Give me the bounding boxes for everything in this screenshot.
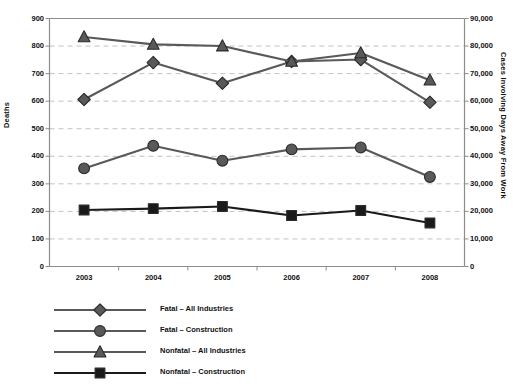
chart-figure: Deaths Cases Involving Days Away From Wo… xyxy=(0,0,520,387)
legend-marker-square-icon xyxy=(52,363,148,387)
data-point-marker xyxy=(95,326,106,337)
data-point-marker xyxy=(425,218,435,228)
data-point-marker xyxy=(425,172,436,183)
data-point-marker xyxy=(148,204,158,214)
chart-legend: Fatal – All IndustriesFatal – Constructi… xyxy=(52,300,352,384)
legend-label: Fatal – Construction xyxy=(160,325,233,334)
data-point-marker xyxy=(78,93,90,105)
data-point-marker xyxy=(217,155,228,166)
series-3 xyxy=(79,202,435,228)
data-point-marker xyxy=(355,142,366,153)
data-point-marker xyxy=(216,77,228,89)
data-point-marker xyxy=(148,140,159,151)
series-1 xyxy=(79,140,436,182)
data-point-marker xyxy=(218,202,228,212)
legend-item-0[interactable]: Fatal – All Industries xyxy=(52,300,352,321)
data-point-marker xyxy=(355,47,367,58)
data-point-marker xyxy=(95,368,105,378)
data-point-marker xyxy=(79,163,90,174)
data-point-marker xyxy=(147,56,159,68)
data-point-marker xyxy=(424,96,436,108)
data-point-marker xyxy=(286,144,297,155)
legend-item-3[interactable]: Nonfatal – Construction xyxy=(52,363,352,384)
legend-label: Nonfatal – All Industries xyxy=(160,346,246,355)
data-point-marker xyxy=(79,205,89,215)
series-2 xyxy=(78,31,436,85)
legend-item-2[interactable]: Nonfatal – All Industries xyxy=(52,342,352,363)
data-point-marker xyxy=(94,304,106,316)
data-point-marker xyxy=(356,206,366,216)
data-point-marker xyxy=(78,31,90,42)
legend-item-1[interactable]: Fatal – Construction xyxy=(52,321,352,342)
series-line xyxy=(84,60,430,103)
data-point-marker xyxy=(287,211,297,221)
series-line xyxy=(84,146,430,177)
series-line xyxy=(84,206,430,223)
legend-label: Nonfatal – Construction xyxy=(160,367,245,376)
legend-label: Fatal – All Industries xyxy=(160,304,233,313)
